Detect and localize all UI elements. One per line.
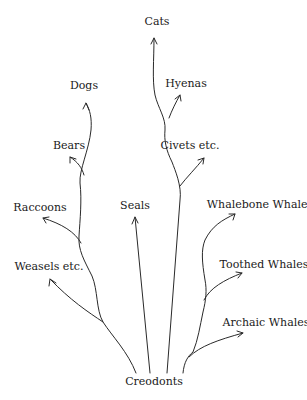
phylogeny-diagram: Cats Hyenas Dogs Bears Civets etc. Seals… (0, 0, 307, 400)
label-dogs: Dogs (70, 79, 98, 92)
label-archaic-whales: Archaic Whales (222, 316, 307, 329)
label-raccoons: Raccoons (13, 201, 67, 214)
branch-trunk-caniform (79, 103, 136, 373)
label-seals: Seals (120, 199, 150, 212)
label-toothed-whales: Toothed Whales (220, 258, 307, 271)
label-whalebone-whales: Whalebone Whales (207, 198, 307, 211)
branch-toothed-whales (204, 273, 242, 300)
arrowhead-weasels (49, 279, 56, 286)
branch-bears (70, 157, 84, 175)
seals-clade (132, 217, 150, 373)
label-cats: Cats (144, 15, 169, 28)
label-bears: Bears (53, 139, 85, 152)
branch-civets (180, 158, 204, 186)
branch-archaic-whales (189, 333, 243, 357)
label-hyenas: Hyenas (165, 77, 207, 90)
label-creodonts-root: Creodonts (125, 375, 183, 388)
label-civets: Civets etc. (161, 139, 220, 152)
branch-hyenas (169, 95, 180, 118)
label-weasels: Weasels etc. (15, 260, 84, 273)
branch-seals (135, 217, 150, 373)
whale-clade (183, 214, 243, 373)
branch-raccoons (43, 218, 81, 243)
taxon-labels: Cats Hyenas Dogs Bears Civets etc. Seals… (13, 15, 307, 388)
